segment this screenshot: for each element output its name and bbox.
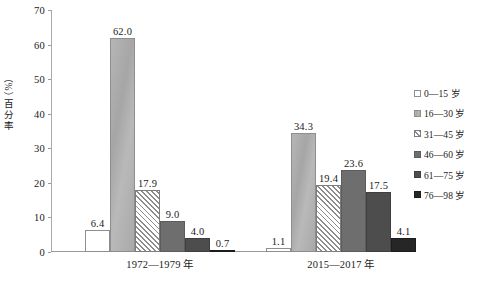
x-axis-label: 1972—1979 年	[126, 256, 193, 271]
y-tick-label-70: 70	[34, 5, 45, 16]
y-tick-label-60: 60	[34, 39, 45, 50]
y-tick-mark-10	[48, 217, 51, 218]
y-axis-line	[51, 10, 52, 252]
bar-value-label: 4.1	[397, 226, 411, 237]
legend-label: 76—98 岁	[424, 188, 466, 202]
legend-label: 0—15 岁	[424, 86, 461, 100]
y-tick-label-50: 50	[34, 74, 45, 85]
legend-swatch-icon	[414, 151, 421, 158]
y-tick-mark-30	[48, 148, 51, 149]
y-axis-title-char-2: 率	[2, 121, 16, 132]
bar-value-label: 19.4	[319, 173, 338, 184]
y-axis-title-char-0: 百	[2, 99, 16, 110]
bar: 19.4	[316, 185, 341, 252]
bar-value-label: 4.0	[191, 226, 205, 237]
bar: 0.7	[210, 250, 235, 253]
bar-group: 1.134.319.423.617.54.1	[266, 10, 416, 252]
legend-label: 46—60 岁	[424, 147, 466, 161]
bar: 17.9	[135, 190, 160, 252]
bar-value-label: 9.0	[166, 209, 180, 220]
bar-value-label: 17.9	[138, 178, 157, 189]
bar: 1.1	[266, 248, 291, 252]
y-tick-mark-20	[48, 183, 51, 184]
y-tick-mark-50	[48, 79, 51, 80]
legend-label: 16—30 岁	[424, 106, 466, 120]
legend-item[interactable]: 16—30 岁	[414, 106, 466, 120]
y-tick-label-0: 0	[40, 247, 45, 258]
bar-value-label: 23.6	[344, 158, 363, 169]
y-axis-title-char-1: 分	[2, 110, 16, 121]
bar: 4.0	[185, 238, 210, 252]
y-axis-title-unit: （%）	[4, 87, 15, 101]
y-tick-label-30: 30	[34, 143, 45, 154]
y-tick-label-20: 20	[34, 177, 45, 188]
bar-value-label: 34.3	[294, 121, 313, 132]
bar-value-label: 0.7	[216, 238, 230, 249]
bar: 23.6	[341, 170, 366, 252]
bar: 4.1	[391, 238, 416, 252]
bar-chart: （%） 百 分 率 010203040506070 6.462.017.99.0…	[0, 0, 501, 288]
bar-value-label: 1.1	[272, 236, 286, 247]
legend-item[interactable]: 61—75 岁	[414, 168, 466, 182]
bar: 6.4	[85, 230, 110, 252]
bar-group: 6.462.017.99.04.00.7	[85, 10, 235, 252]
y-tick-mark-0	[48, 252, 51, 253]
legend-label: 31—45 岁	[424, 127, 466, 141]
y-tick-mark-60	[48, 45, 51, 46]
x-axis-label: 2015—2017 年	[307, 256, 374, 271]
legend-label: 61—75 岁	[424, 168, 466, 182]
y-axis-title: （%） 百 分 率	[2, 88, 16, 132]
bar-value-label: 17.5	[369, 180, 388, 191]
chart-legend: 0—15 岁16—30 岁31—45 岁46—60 岁61—75 岁76—98 …	[414, 86, 466, 202]
bar-value-label: 6.4	[91, 218, 105, 229]
legend-swatch-icon	[414, 130, 421, 137]
legend-swatch-icon	[414, 90, 421, 97]
legend-swatch-icon	[414, 110, 421, 117]
bar-value-label: 62.0	[113, 26, 132, 37]
y-tick-label-10: 10	[34, 212, 45, 223]
bar: 17.5	[366, 192, 391, 253]
y-tick-mark-40	[48, 114, 51, 115]
legend-item[interactable]: 76—98 岁	[414, 188, 466, 202]
legend-swatch-icon	[414, 191, 421, 198]
legend-item[interactable]: 46—60 岁	[414, 147, 466, 161]
y-tick-label-40: 40	[34, 108, 45, 119]
legend-swatch-icon	[414, 171, 421, 178]
bar: 62.0	[110, 38, 135, 252]
bar: 34.3	[291, 133, 316, 252]
bar: 9.0	[160, 221, 185, 252]
y-tick-mark-70	[48, 10, 51, 11]
legend-item[interactable]: 0—15 岁	[414, 86, 466, 100]
legend-item[interactable]: 31—45 岁	[414, 127, 466, 141]
plot-area: 010203040506070 6.462.017.99.04.00.71.13…	[51, 10, 395, 252]
